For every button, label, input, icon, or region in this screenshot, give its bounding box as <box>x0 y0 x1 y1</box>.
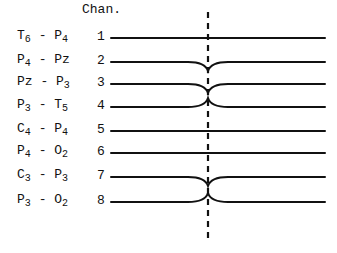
channel-trace <box>111 62 325 71</box>
channel-trace <box>111 193 325 202</box>
channel-number: 7 <box>97 168 105 183</box>
channel-trace <box>111 98 325 107</box>
channel-number: 5 <box>97 122 105 137</box>
channel-number: 1 <box>97 29 105 44</box>
channel-number: 8 <box>97 193 105 208</box>
channel-number: 6 <box>97 144 105 159</box>
channel-number: 3 <box>97 75 105 90</box>
channel-trace <box>111 84 325 93</box>
channel-number: 2 <box>97 53 105 68</box>
channel-number: 4 <box>97 98 105 113</box>
channel-trace <box>111 177 325 186</box>
eeg-trace-diagram <box>0 0 337 253</box>
